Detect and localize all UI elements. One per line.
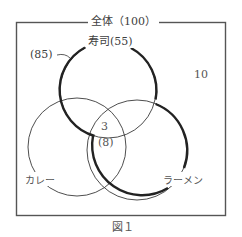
curry-label: カレー — [25, 175, 55, 187]
outside-count-label: 10 — [194, 69, 208, 81]
sushi-label: 寿司(55) — [86, 36, 135, 48]
union-outline-sushi-left — [60, 48, 95, 137]
figure-caption: 図１ — [112, 222, 134, 234]
union-outline-sushi-right — [131, 48, 156, 100]
union-outline-ramen-right — [156, 104, 188, 168]
venn-diagram: 全体（100） 寿司(55) (85) 10 3 (8) カレー ラーメン 図１ — [0, 0, 242, 237]
union-leader-line — [57, 54, 70, 58]
universe-title: 全体（100） — [88, 16, 159, 28]
ramen-label: ラーメン — [163, 175, 203, 187]
triple-intersection-paren-label: (8) — [98, 137, 114, 149]
triple-intersection-label: 3 — [101, 121, 108, 133]
union-count-label: (85) — [30, 49, 53, 61]
